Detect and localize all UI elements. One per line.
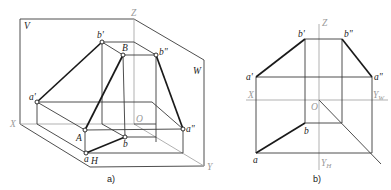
label-b-dprime: b": [344, 29, 354, 39]
proj-line: [102, 124, 125, 137]
proj-line: [123, 55, 125, 137]
label-a-dprime: a": [374, 72, 384, 82]
point-b-prime: [100, 40, 104, 44]
label-x-axis: X: [9, 119, 17, 129]
label-A: A: [75, 133, 82, 143]
label-z-axis: Z: [131, 8, 137, 18]
label-a-dprime: a": [186, 124, 196, 134]
proj-line: [134, 42, 156, 55]
label-b: b: [123, 139, 128, 149]
label-a: a: [84, 154, 89, 164]
label-B: B: [122, 43, 128, 53]
point-a-dprime: [181, 127, 185, 131]
label-v-plane: V: [24, 21, 31, 31]
label-origin: O: [136, 114, 143, 124]
label-a: a: [253, 155, 258, 165]
point-b-dprime: [154, 53, 158, 57]
label-b: b: [304, 126, 309, 136]
segment-AB: [85, 55, 123, 130]
proj-line: [37, 102, 85, 130]
point-B: [121, 53, 125, 57]
label-origin: O: [311, 102, 318, 112]
segment-a-prime-b-prime: [256, 39, 305, 77]
label-a-prime: a': [246, 72, 254, 82]
label-h-plane: H: [90, 156, 99, 166]
label-y-axis: Y: [207, 162, 214, 172]
projection-diagram: V W H Z X Y O a' b' B b" a" A a b a): [0, 0, 391, 190]
figure-b: Z X O YW YH a' b' b" a" a b b): [246, 18, 388, 184]
label-z-axis: Z: [322, 18, 328, 28]
proj-line: [102, 42, 123, 55]
label-b-prime: b': [298, 29, 306, 39]
segment-ab: [256, 123, 305, 153]
caption-b: b): [313, 174, 321, 184]
segment-a-prime-b-prime: [37, 42, 102, 102]
caption-a: a): [107, 174, 115, 184]
segment-ab: [86, 137, 125, 153]
label-x-axis: X: [247, 90, 255, 100]
label-yh-axis: YH: [321, 158, 332, 170]
segment-a-dprime-b-dprime: [156, 55, 183, 129]
label-b-dprime: b": [159, 47, 169, 57]
label-w-plane: W: [193, 66, 202, 76]
segment-a-dprime-b-dprime: [342, 39, 372, 77]
label-a-prime: a': [29, 92, 37, 102]
figure-a: V W H Z X Y O a' b' B b" a" A a b a): [9, 8, 214, 184]
point-A: [83, 128, 87, 132]
label-b-prime: b': [97, 30, 105, 40]
proj-line: [85, 129, 183, 130]
